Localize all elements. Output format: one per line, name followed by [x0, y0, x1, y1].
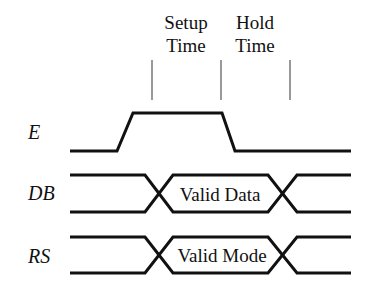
- waveform-rs: Valid Mode: [70, 237, 351, 273]
- hold-time-label-line1: Hold: [236, 12, 275, 33]
- signal-label-rs: RS: [27, 245, 50, 267]
- rs-valid-label: Valid Mode: [177, 245, 266, 266]
- hold-time-label-line2: Time: [235, 35, 274, 56]
- timing-diagram: Setup Time Hold Time E DB RS Valid Data …: [0, 0, 376, 301]
- hold-time-header: Hold Time: [235, 12, 274, 56]
- setup-time-header: Setup Time: [164, 12, 207, 56]
- signal-label-e: E: [27, 121, 40, 143]
- setup-time-label-line2: Time: [166, 35, 205, 56]
- signal-label-db: DB: [27, 182, 55, 204]
- waveform-e: [70, 113, 351, 151]
- db-valid-label: Valid Data: [180, 184, 261, 205]
- setup-time-label-line1: Setup: [164, 12, 207, 33]
- waveform-db: Valid Data: [70, 175, 351, 212]
